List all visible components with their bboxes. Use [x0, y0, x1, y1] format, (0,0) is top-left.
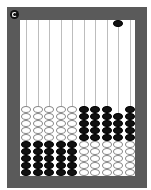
bead-black[interactable]	[90, 127, 100, 134]
bead-white[interactable]	[21, 106, 31, 113]
bead-white[interactable]	[21, 127, 31, 134]
bead-black[interactable]	[67, 155, 77, 162]
bead-black[interactable]	[125, 127, 135, 134]
bead-black[interactable]	[33, 169, 43, 176]
bead-white[interactable]	[102, 169, 112, 176]
bead-black[interactable]	[67, 162, 77, 169]
bead-black[interactable]	[90, 106, 100, 113]
bead-white[interactable]	[56, 127, 66, 134]
bead-white[interactable]	[90, 148, 100, 155]
bead-white[interactable]	[90, 169, 100, 176]
bead-black[interactable]	[56, 155, 66, 162]
bead-black[interactable]	[113, 113, 123, 120]
bead-white[interactable]	[113, 162, 123, 169]
bead-black[interactable]	[44, 162, 54, 169]
bead-white[interactable]	[67, 127, 77, 134]
bead-white[interactable]	[79, 155, 89, 162]
bead-white[interactable]	[56, 120, 66, 127]
bead-white[interactable]	[33, 106, 43, 113]
bead-white[interactable]	[33, 134, 43, 141]
bead-white[interactable]	[125, 148, 135, 155]
bead-black[interactable]	[79, 113, 89, 120]
bead-black[interactable]	[44, 141, 54, 148]
bead-black[interactable]	[79, 106, 89, 113]
bead-white[interactable]	[33, 120, 43, 127]
bead-black[interactable]	[33, 155, 43, 162]
bead-white[interactable]	[125, 141, 135, 148]
bead-black[interactable]	[79, 134, 89, 141]
bead-black[interactable]	[125, 106, 135, 113]
bead-white[interactable]	[102, 141, 112, 148]
bead-white[interactable]	[67, 134, 77, 141]
bead-white[interactable]	[102, 155, 112, 162]
bead-white[interactable]	[44, 113, 54, 120]
bead-white[interactable]	[102, 148, 112, 155]
bead-black[interactable]	[90, 134, 100, 141]
bead-black[interactable]	[44, 155, 54, 162]
bead-black[interactable]	[79, 127, 89, 134]
bead-white[interactable]	[90, 155, 100, 162]
bead-black[interactable]	[21, 148, 31, 155]
bead-black[interactable]	[56, 141, 66, 148]
bead-black[interactable]	[102, 127, 112, 134]
bead-black[interactable]	[125, 120, 135, 127]
bead-black[interactable]	[33, 148, 43, 155]
bead-black[interactable]	[125, 113, 135, 120]
bead-black[interactable]	[90, 113, 100, 120]
bead-white[interactable]	[44, 120, 54, 127]
bead-black[interactable]	[113, 120, 123, 127]
bead-white[interactable]	[113, 155, 123, 162]
bead-black[interactable]	[56, 148, 66, 155]
bead-white[interactable]	[79, 162, 89, 169]
bead-white[interactable]	[21, 113, 31, 120]
bead-black[interactable]	[67, 141, 77, 148]
bead-white[interactable]	[21, 134, 31, 141]
bead-white[interactable]	[79, 169, 89, 176]
bead-white[interactable]	[90, 141, 100, 148]
bead-black[interactable]	[113, 20, 123, 27]
bead-white[interactable]	[56, 106, 66, 113]
bead-black[interactable]	[102, 134, 112, 141]
bead-black[interactable]	[90, 120, 100, 127]
bead-black[interactable]	[67, 148, 77, 155]
bead-black[interactable]	[113, 127, 123, 134]
bead-white[interactable]	[44, 134, 54, 141]
bead-white[interactable]	[79, 148, 89, 155]
bead-white[interactable]	[67, 120, 77, 127]
bead-white[interactable]	[79, 141, 89, 148]
bead-black[interactable]	[102, 106, 112, 113]
bead-white[interactable]	[67, 106, 77, 113]
bead-white[interactable]	[125, 162, 135, 169]
bead-white[interactable]	[113, 169, 123, 176]
bead-white[interactable]	[113, 141, 123, 148]
bead-black[interactable]	[56, 162, 66, 169]
bead-white[interactable]	[90, 162, 100, 169]
bead-black[interactable]	[44, 169, 54, 176]
bead-black[interactable]	[56, 169, 66, 176]
bead-black[interactable]	[102, 113, 112, 120]
bead-black[interactable]	[21, 162, 31, 169]
bead-black[interactable]	[21, 169, 31, 176]
bead-black[interactable]	[113, 134, 123, 141]
bead-white[interactable]	[33, 113, 43, 120]
bead-black[interactable]	[33, 162, 43, 169]
reset-icon[interactable]	[10, 10, 19, 19]
bead-black[interactable]	[21, 141, 31, 148]
bead-black[interactable]	[44, 148, 54, 155]
bead-white[interactable]	[67, 113, 77, 120]
bead-black[interactable]	[33, 141, 43, 148]
bead-white[interactable]	[125, 155, 135, 162]
bead-black[interactable]	[67, 169, 77, 176]
bead-white[interactable]	[56, 134, 66, 141]
bead-white[interactable]	[102, 162, 112, 169]
bead-white[interactable]	[56, 113, 66, 120]
bead-white[interactable]	[44, 127, 54, 134]
bead-black[interactable]	[125, 134, 135, 141]
bead-white[interactable]	[113, 148, 123, 155]
bead-black[interactable]	[79, 120, 89, 127]
bead-black[interactable]	[21, 155, 31, 162]
bead-white[interactable]	[21, 120, 31, 127]
bead-white[interactable]	[33, 127, 43, 134]
bead-white[interactable]	[125, 169, 135, 176]
bead-white[interactable]	[44, 106, 54, 113]
